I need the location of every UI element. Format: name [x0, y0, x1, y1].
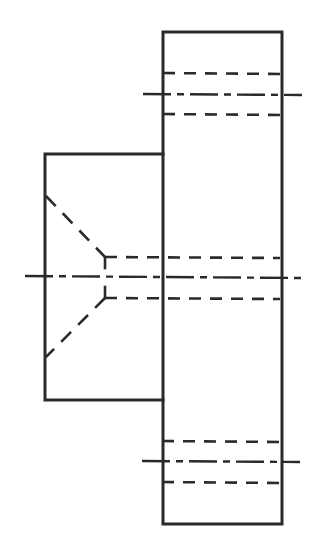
bore-hidden-upper — [105, 257, 280, 258]
drill-cone-lower — [46, 298, 105, 357]
bottom-hole-hidden-upper — [162, 441, 281, 442]
top-hole-hidden-upper — [163, 73, 282, 74]
bore-hidden-lower — [105, 298, 280, 299]
bottom-hole-centerline — [142, 461, 300, 462]
technical-drawing — [0, 0, 325, 554]
top-hole-hidden-lower — [163, 114, 282, 115]
drill-cone-upper — [46, 196, 105, 257]
top-hole-centerline — [143, 94, 302, 95]
bottom-hole-hidden-lower — [162, 482, 281, 483]
